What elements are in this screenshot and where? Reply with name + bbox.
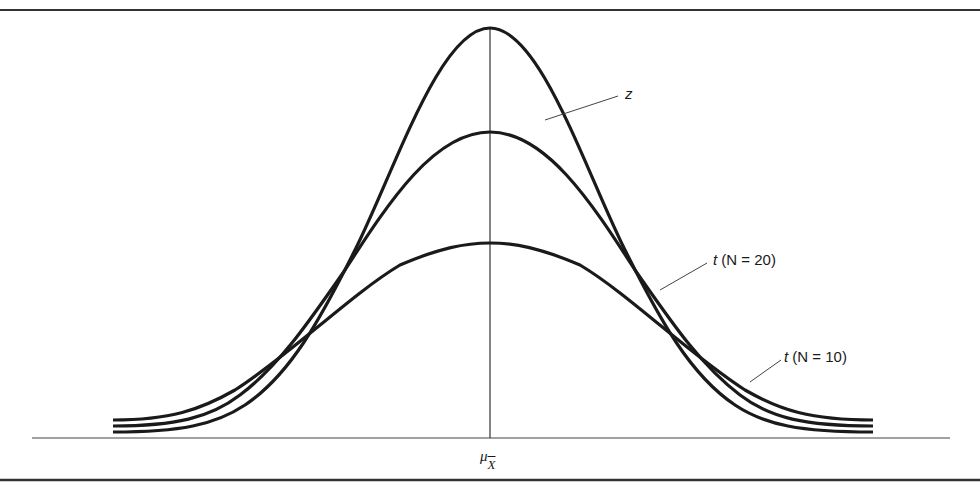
leader-t20 [660,263,707,290]
label-z: z [625,85,633,102]
mean-label: μX [480,448,495,469]
leader-t10 [750,360,781,382]
curve-t20 [113,132,873,426]
curve-z [113,28,873,432]
curve-t10 [113,243,873,420]
distribution-figure [0,0,980,487]
label-t10: t (N = 10) [784,348,847,365]
label-t20: t (N = 20) [713,251,776,268]
